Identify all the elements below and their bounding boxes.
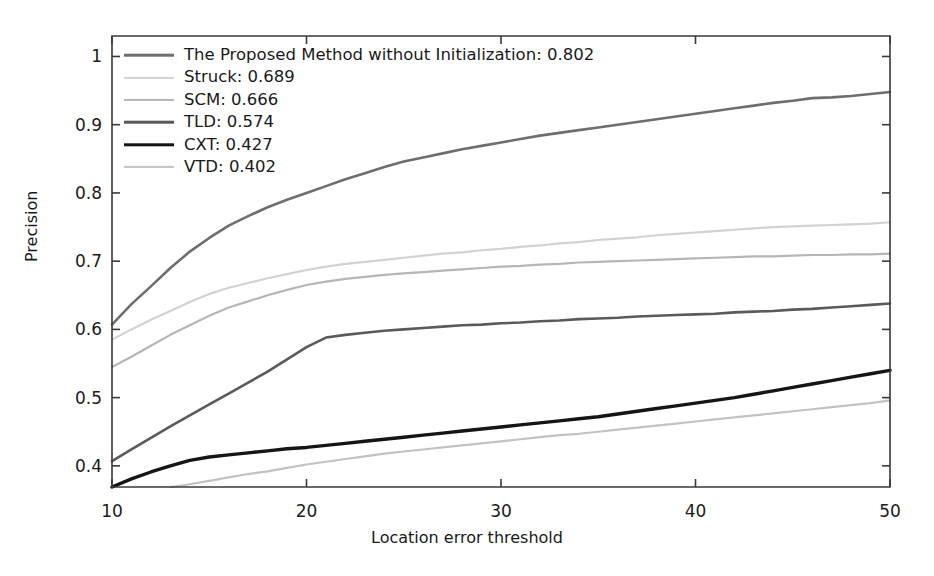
legend-item: Struck: 0.689 xyxy=(124,66,594,88)
x-tick-label: 50 xyxy=(879,501,901,521)
series-line-vtd xyxy=(170,400,890,487)
legend-line-swatch xyxy=(124,95,174,105)
legend-line-swatch xyxy=(124,117,174,127)
legend-label: VTD: 0.402 xyxy=(184,159,276,176)
legend: The Proposed Method without Initializati… xyxy=(124,44,594,178)
legend-line-swatch xyxy=(124,162,174,172)
y-tick-label: 0.5 xyxy=(40,388,102,408)
legend-item: CXT: 0.427 xyxy=(124,134,594,156)
legend-item: SCM: 0.666 xyxy=(124,89,594,111)
y-tick-label: 0.8 xyxy=(40,183,102,203)
x-tick-label: 30 xyxy=(490,501,512,521)
legend-line-swatch xyxy=(124,50,174,60)
y-tick-label: 0.9 xyxy=(40,115,102,135)
y-tick-label: 1 xyxy=(40,46,102,66)
legend-item: VTD: 0.402 xyxy=(124,156,594,178)
legend-line-swatch xyxy=(124,140,174,150)
y-tick-label: 0.4 xyxy=(40,456,102,476)
legend-item: The Proposed Method without Initializati… xyxy=(124,44,594,66)
series-line-cxt xyxy=(112,370,890,487)
legend-line-swatch xyxy=(124,73,174,83)
precision-plot-figure: Precision Location error threshold 0.40.… xyxy=(0,0,934,576)
y-axis-label: Precision xyxy=(22,191,41,262)
legend-label: SCM: 0.666 xyxy=(184,92,278,109)
legend-label: Struck: 0.689 xyxy=(184,69,295,86)
series-line-tld xyxy=(112,303,890,461)
legend-label: CXT: 0.427 xyxy=(184,137,273,154)
legend-item: TLD: 0.574 xyxy=(124,111,594,133)
y-tick-label: 0.6 xyxy=(40,319,102,339)
y-tick-label: 0.7 xyxy=(40,251,102,271)
legend-label: The Proposed Method without Initializati… xyxy=(184,47,594,64)
x-tick-label: 10 xyxy=(101,501,123,521)
x-tick-label: 20 xyxy=(296,501,318,521)
x-axis-label: Location error threshold xyxy=(0,528,934,547)
legend-label: TLD: 0.574 xyxy=(184,114,274,131)
x-tick-label: 40 xyxy=(685,501,707,521)
